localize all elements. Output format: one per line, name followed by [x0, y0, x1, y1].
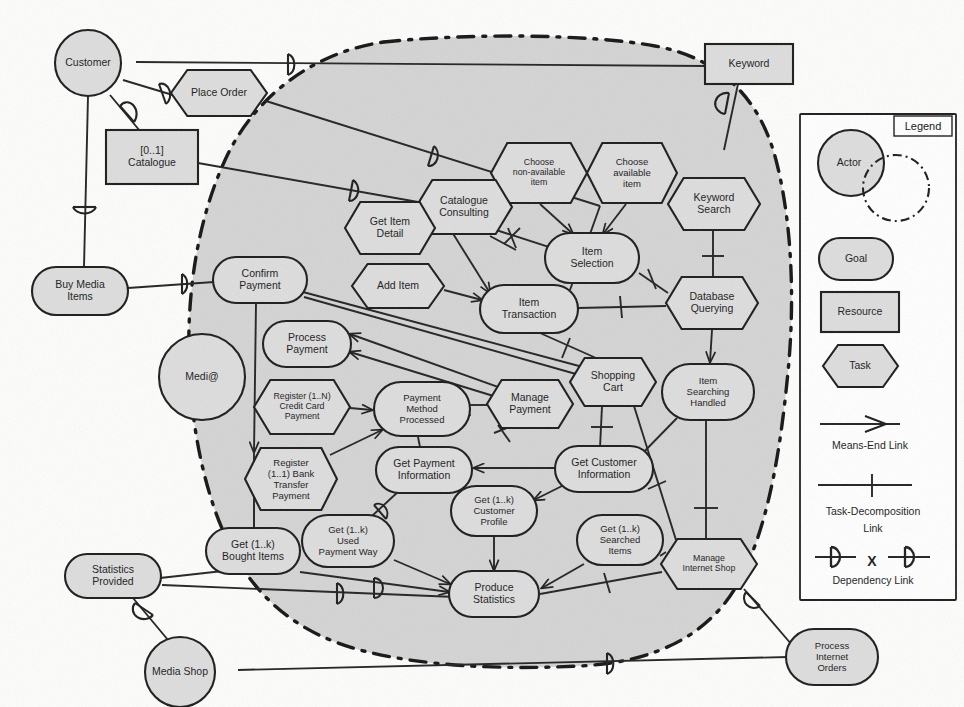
node-payment-method-processed[interactable]: PaymentMethodProcessed [374, 382, 470, 436]
node-add-item-shape[interactable] [352, 264, 444, 308]
edge-customer-place-order [123, 80, 176, 104]
node-item-selection-shape[interactable] [545, 233, 639, 283]
node-database-querying[interactable]: DatabaseQuerying [666, 277, 758, 329]
diagram-canvas: CustomerMedi@Media ShopPlace Order[0..1]… [0, 0, 964, 707]
node-manage-internet-shop-shape[interactable] [661, 539, 757, 589]
node-medi-a[interactable]: Medi@ [159, 334, 245, 420]
node-get-payment-information[interactable]: Get PaymentInformation [376, 447, 472, 493]
node-register-credit-card-shape[interactable] [254, 380, 350, 434]
node-get-customer-profile[interactable]: Get (1..k)CustomerProfile [451, 486, 537, 536]
node-place-order[interactable]: Place Order [171, 70, 267, 116]
edge-statistics-provided-media-shop [133, 598, 168, 640]
legend-task-decomposition-label-2: Link [863, 522, 883, 534]
node-process-internet-orders[interactable]: ProcessInternetOrders [786, 629, 878, 685]
node-get-searched-items-shape[interactable] [577, 515, 663, 565]
node-get-searched-items[interactable]: Get (1..k)SearchedItems [577, 515, 663, 565]
node-statistics-provided-shape[interactable] [65, 554, 161, 598]
node-process-internet-orders-shape[interactable] [786, 629, 878, 685]
node-medi-a-shape[interactable] [159, 334, 245, 420]
node-item-searching-handled[interactable]: ItemSearchingHandled [662, 364, 754, 420]
node-database-querying-shape[interactable] [666, 277, 758, 329]
node-get-bought-items-shape[interactable] [206, 528, 300, 574]
node-confirm-payment-shape[interactable] [213, 257, 307, 303]
legend-dependency-separator: X [867, 553, 877, 569]
legend-goal-label: Goal [845, 252, 867, 264]
node-get-bought-items[interactable]: Get (1..k)Bought Items [206, 528, 300, 574]
node-produce-statistics[interactable]: ProduceStatistics [449, 571, 539, 617]
node-keyword[interactable]: Keyword [705, 44, 793, 84]
node-buy-media-items[interactable]: Buy MediaItems [32, 267, 128, 315]
node-get-customer-profile-shape[interactable] [451, 486, 537, 536]
legend-resource-label: Resource [838, 305, 883, 317]
edge-customer-buy-media-items [73, 96, 96, 267]
node-media-shop[interactable]: Media Shop [145, 637, 215, 707]
node-get-payment-information-shape[interactable] [376, 447, 472, 493]
node-get-used-payment-way[interactable]: Get (1..k)UsedPayment Way [302, 515, 394, 567]
node-get-used-payment-way-shape[interactable] [302, 515, 394, 567]
goal-model-svg: CustomerMedi@Media ShopPlace Order[0..1]… [0, 0, 964, 707]
node-get-customer-information-shape[interactable] [555, 446, 653, 492]
node-place-order-shape[interactable] [171, 70, 267, 116]
node-choose-non-available[interactable]: Choosenon-availableitem [491, 143, 587, 203]
node-catalogue[interactable]: [0..1]Catalogue [106, 130, 198, 184]
node-item-transaction[interactable]: ItemTransaction [480, 285, 578, 333]
legend-dependency-label: Dependency Link [832, 574, 914, 586]
node-add-item[interactable]: Add Item [352, 264, 444, 308]
node-keyword-search[interactable]: KeywordSearch [668, 178, 760, 230]
node-statistics-provided[interactable]: StatisticsProvided [65, 554, 161, 598]
node-manage-payment[interactable]: ManagePayment [487, 380, 573, 428]
node-choose-available[interactable]: Chooseavailableitem [587, 143, 677, 203]
node-get-item-detail[interactable]: Get ItemDetail [345, 202, 435, 254]
edge-customer-catalogue [110, 95, 140, 131]
node-process-payment[interactable]: ProcessPayment [263, 321, 351, 367]
node-choose-available-shape[interactable] [587, 143, 677, 203]
node-manage-internet-shop[interactable]: ManageInternet Shop [661, 539, 757, 589]
node-keyword-search-shape[interactable] [668, 178, 760, 230]
legend-means-end-label: Means-End Link [832, 439, 909, 451]
node-customer-shape[interactable] [55, 30, 121, 96]
node-confirm-payment[interactable]: ConfirmPayment [213, 257, 307, 303]
node-shopping-cart[interactable]: ShoppingCart [570, 358, 656, 406]
legend-actor-label: Actor [837, 156, 862, 168]
edge-manage-internet-shop-process-internet-orders [744, 589, 792, 645]
node-shopping-cart-shape[interactable] [570, 358, 656, 406]
node-item-searching-handled-shape[interactable] [662, 364, 754, 420]
legend-task-label: Task [849, 359, 871, 371]
node-get-item-detail-shape[interactable] [345, 202, 435, 254]
node-catalogue-shape[interactable] [106, 130, 198, 184]
node-get-customer-information[interactable]: Get CustomerInformation [555, 446, 653, 492]
legend-task-decomposition-label-1: Task-Decomposition [826, 505, 921, 517]
node-keyword-shape[interactable] [705, 44, 793, 84]
node-payment-method-processed-shape[interactable] [374, 382, 470, 436]
node-customer[interactable]: Customer [55, 30, 121, 96]
node-register-bank-transfer[interactable]: Register(1..1) BankTransferPayment [245, 448, 337, 510]
node-manage-payment-shape[interactable] [487, 380, 573, 428]
node-choose-non-available-shape[interactable] [491, 143, 587, 203]
node-media-shop-shape[interactable] [145, 637, 215, 707]
legend-title: Legend [905, 120, 942, 132]
node-item-selection[interactable]: ItemSelection [545, 233, 639, 283]
node-process-payment-shape[interactable] [263, 321, 351, 367]
node-produce-statistics-shape[interactable] [449, 571, 539, 617]
node-register-bank-transfer-shape[interactable] [245, 448, 337, 510]
node-register-credit-card[interactable]: Register (1..N)Credit CardPayment [254, 380, 350, 434]
legend: Legend Actor Goal Resource Task Means-En… [800, 114, 956, 600]
node-buy-media-items-shape[interactable] [32, 267, 128, 315]
node-item-transaction-shape[interactable] [480, 285, 578, 333]
